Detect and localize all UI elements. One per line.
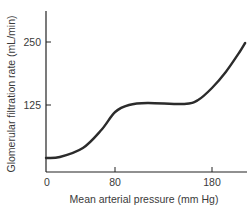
y-axis-label: Glomerular filtration rate (mL/min) [5,16,17,173]
y-tick-label-125: 125 [23,99,41,111]
x-tick-label-180: 180 [203,176,221,188]
y-tick-label-250: 250 [23,36,41,48]
gfr-curve [46,43,245,158]
x-tick-label-0: 0 [44,176,50,188]
x-tick-label-80: 80 [109,176,121,188]
x-axis-label: Mean arterial pressure (mm Hg) [70,193,219,205]
gfr-chart: 250 125 0 80 180 Mean arterial pressure … [0,0,252,210]
